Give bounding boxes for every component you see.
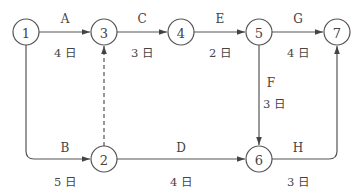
activity-duration-G: 4 日 bbox=[287, 46, 309, 60]
node-7: 7 bbox=[324, 19, 350, 45]
activity-name-F: F bbox=[267, 76, 275, 90]
activity-duration-D: 4 日 bbox=[170, 175, 192, 189]
network-diagram: 1 3 4 5 7 2 6 A 4 日 C bbox=[0, 0, 363, 196]
node-label: 1 bbox=[22, 26, 30, 41]
node-4: 4 bbox=[168, 19, 194, 45]
activity-name-C: C bbox=[137, 12, 146, 26]
node-3: 3 bbox=[91, 19, 117, 45]
activity-name-H: H bbox=[293, 141, 303, 155]
node-5: 5 bbox=[246, 19, 272, 45]
activity-duration-C: 3 日 bbox=[131, 46, 153, 60]
activity-duration-E: 2 日 bbox=[209, 46, 231, 60]
node-label: 3 bbox=[100, 26, 108, 41]
activity-duration-H: 3 日 bbox=[287, 175, 309, 189]
edge-B bbox=[26, 45, 90, 159]
activity-duration-F: 3 日 bbox=[263, 97, 285, 111]
activity-name-B: B bbox=[61, 141, 70, 155]
node-label: 4 bbox=[177, 26, 185, 41]
activity-name-A: A bbox=[60, 12, 70, 26]
node-label: 2 bbox=[100, 153, 108, 168]
activity-name-D: D bbox=[176, 141, 186, 155]
activity-name-E: E bbox=[216, 12, 225, 26]
activity-duration-B: 5 日 bbox=[54, 175, 76, 189]
node-label: 5 bbox=[255, 26, 263, 41]
node-2: 2 bbox=[91, 146, 117, 172]
node-label: 7 bbox=[333, 26, 341, 41]
node-6: 6 bbox=[246, 146, 272, 172]
activity-name-G: G bbox=[293, 12, 303, 26]
node-label: 6 bbox=[255, 153, 263, 168]
activity-duration-A: 4 日 bbox=[54, 46, 76, 60]
node-1: 1 bbox=[13, 19, 39, 45]
